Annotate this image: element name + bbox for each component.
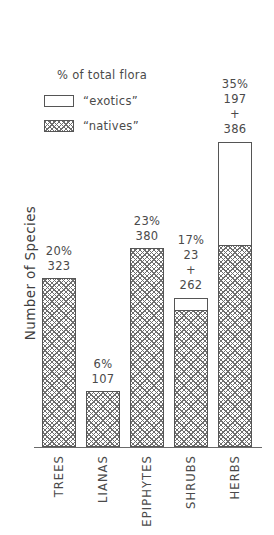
bar-value-line: 386 [222,122,248,137]
legend-label-exotics: “exotics” [83,94,138,108]
bar-segment-natives [86,391,120,447]
bar-segment-natives [42,278,76,447]
x-axis-label-lianas: LIANAS [96,455,110,503]
bar-value-lianas: 6%107 [92,357,115,387]
bar-value-line: + [178,263,204,278]
bar-value-line: 17% [178,233,204,248]
bar-value-line: 23 [178,248,204,263]
legend-item-exotics: “exotics” [44,94,147,108]
bar-value-line: 6% [92,357,115,372]
bar-value-line: + [222,107,248,122]
bar-segment-exotics [218,142,252,245]
legend-swatch-exotics [44,95,74,107]
bar-value-line: 323 [46,259,72,274]
bar-segment-natives [218,245,252,448]
bar-epiphytes [130,248,164,447]
bar-value-line: 197 [222,92,248,107]
bar-value-line: 35% [222,77,248,92]
bar-segment-natives [130,248,164,447]
bar-value-herbs: 35%197+386 [222,77,248,137]
bar-value-trees: 20%323 [46,244,72,274]
bar-trees [42,278,76,447]
y-axis-title: Number of Species [22,193,38,353]
bar-value-line: 23% [134,214,160,229]
legend-swatch-natives [44,120,74,132]
bar-value-epiphytes: 23%380 [134,214,160,244]
legend-label-natives: “natives” [83,119,139,133]
bar-herbs [218,142,252,447]
x-axis-label-shrubs: SHRUBS [184,455,198,509]
bar-value-shrubs: 17%23+262 [178,233,204,293]
bar-chart: Number of Species % of total flora “exot… [0,0,274,535]
legend-item-natives: “natives” [44,119,147,133]
bar-lianas [86,391,120,447]
bar-shrubs [174,298,208,447]
x-axis-label-trees: TREES [52,455,66,497]
bar-segment-natives [174,310,208,447]
x-axis-line [34,447,262,448]
legend-title: % of total flora [57,68,147,82]
x-axis-label-herbs: HERBS [228,455,242,499]
bar-value-line: 380 [134,229,160,244]
bar-value-line: 107 [92,372,115,387]
bar-value-line: 20% [46,244,72,259]
x-axis-label-epiphytes: EPIPHYTES [140,455,154,527]
legend: % of total flora “exotics” “natives” [44,68,147,144]
bar-value-line: 262 [178,278,204,293]
